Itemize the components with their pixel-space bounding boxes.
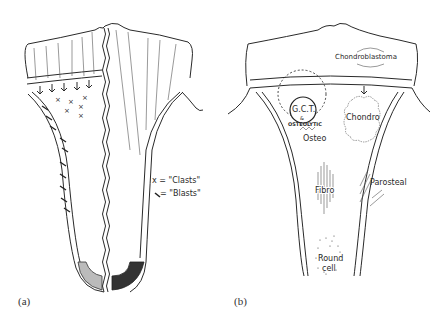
- svg-text:×: ×: [64, 107, 70, 115]
- legend-blasts-label: = "Blasts": [160, 189, 201, 198]
- svg-text:×: ×: [55, 96, 61, 104]
- label-osteo: Osteo: [303, 134, 327, 143]
- svg-text:×: ×: [82, 94, 88, 102]
- label-gct: G.C.T.: [292, 105, 315, 114]
- label-parosteal: Parosteal: [370, 178, 407, 187]
- panel-label-a: (a): [18, 295, 31, 308]
- panel-label-b: (b): [234, 295, 247, 308]
- panel-a-bone-diagram: × × × × × × x = "Clasts" = "Blasts" (a): [18, 23, 203, 308]
- svg-text:×: ×: [78, 103, 84, 111]
- label-fibro: Fibro: [315, 186, 334, 195]
- osteo-hatch-icon: [300, 127, 315, 130]
- chondroblastoma-arc-icon: [357, 48, 384, 52]
- clast-x-marks-icon: × × × × × ×: [55, 94, 88, 120]
- label-chondro: Chondro: [346, 113, 380, 122]
- label-round: Round: [318, 254, 343, 263]
- legend-clasts-label: x = "Clasts": [152, 176, 200, 185]
- panel-b-bone-diagram: Chondroblastoma G.C.T. & OSTEOLYTIC Oste…: [228, 23, 430, 308]
- label-chondroblastoma: Chondroblastoma: [335, 53, 397, 61]
- blast-arrows-icon: [42, 106, 70, 212]
- svg-text:×: ×: [68, 98, 74, 106]
- label-cell: cell: [322, 264, 336, 273]
- legend-panel-a: x = "Clasts" = "Blasts": [152, 176, 201, 198]
- figure-canvas: × × × × × × x = "Clasts" = "Blasts" (a): [0, 0, 447, 319]
- label-osteolytic: OSTEOLYTIC: [288, 121, 322, 127]
- svg-text:×: ×: [78, 112, 84, 120]
